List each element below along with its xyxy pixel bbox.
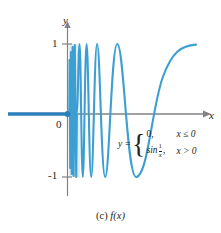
- y-axis-label: y: [63, 15, 68, 26]
- figure-caption: (c) f(x): [0, 210, 221, 221]
- y-tick-label-one: 1: [52, 38, 58, 49]
- left-brace-glyph: {: [132, 134, 145, 154]
- formula-case-one: 0, x ≤ 0: [146, 129, 196, 139]
- case-two-value: sin1x,: [146, 143, 176, 159]
- fraction-numerator: 1: [159, 143, 163, 150]
- fraction-denominator: x: [159, 152, 162, 159]
- figure-sin-one-over-x: y x 1 0 -1 y = { 0, x ≤ 0 sin1x, x > 0 (…: [0, 0, 221, 233]
- case-two-comma: ,: [163, 145, 165, 155]
- piecewise-formula-annotation: y = { 0, x ≤ 0 sin1x, x > 0: [118, 129, 197, 159]
- case-one-condition: x ≤ 0: [176, 129, 195, 139]
- formula-case-two: sin1x, x > 0: [146, 143, 196, 159]
- x-axis-label: x: [209, 110, 214, 121]
- sin-operator: sin: [146, 145, 157, 155]
- origin-label-zero: 0: [56, 119, 62, 130]
- origin-endpoint-dot: [65, 111, 71, 117]
- caption-function-name: f(x): [110, 210, 125, 221]
- case-one-value: 0,: [146, 129, 176, 139]
- caption-prefix: (c): [96, 210, 110, 221]
- one-over-x-fraction: 1x: [159, 143, 163, 159]
- y-tick-label-negative-one: -1: [48, 170, 57, 181]
- formula-lhs: y =: [118, 139, 131, 149]
- plot-canvas: [0, 0, 221, 233]
- case-two-condition: x > 0: [176, 146, 196, 156]
